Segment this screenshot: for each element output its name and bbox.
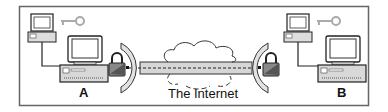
node-a-label: A (79, 85, 88, 100)
computer-a-small-icon (28, 14, 56, 42)
vpn-diagram: A B The Internet (0, 0, 388, 112)
tunnel-endpoint-left (126, 66, 129, 69)
tunnel-endpoint-right (258, 66, 261, 69)
vpn-tunnel (128, 62, 262, 74)
computer-b-small-icon (284, 14, 312, 42)
internet-caption: The Internet (168, 86, 238, 101)
node-b-label: B (337, 85, 346, 100)
